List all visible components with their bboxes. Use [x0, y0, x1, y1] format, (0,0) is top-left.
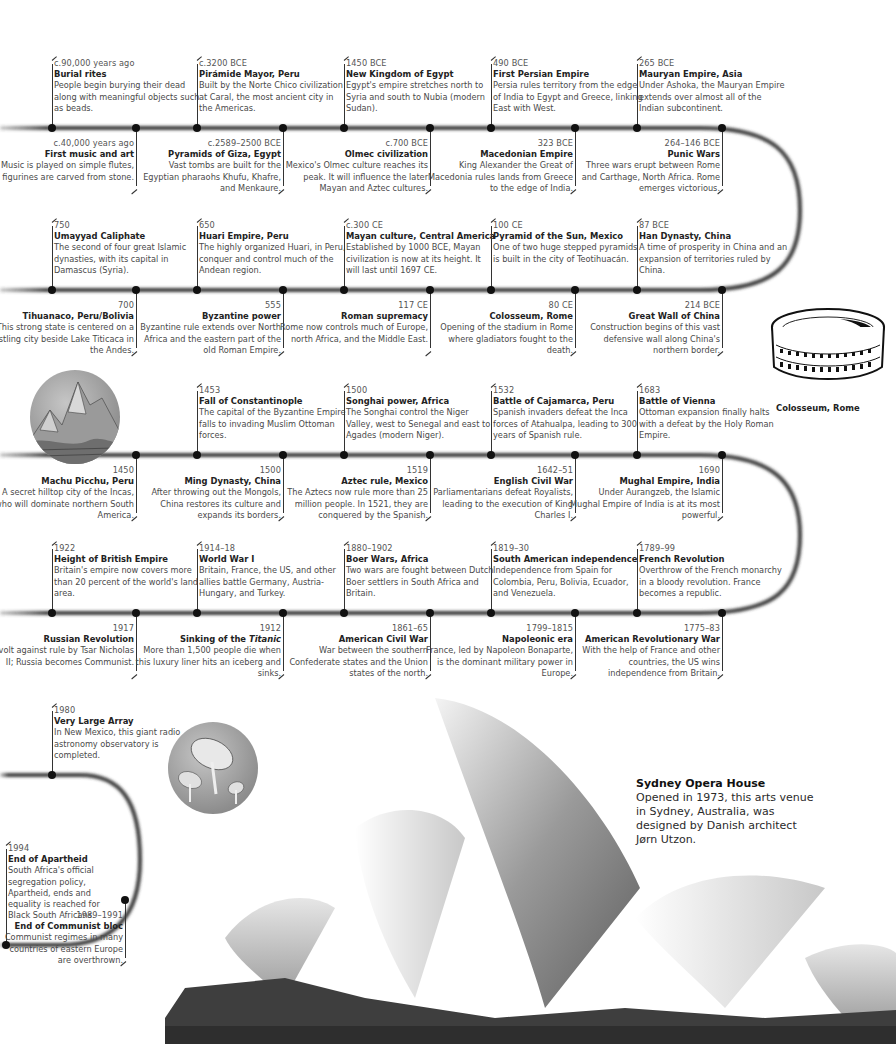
event-date: c.700 BCE [278, 138, 428, 149]
timeline-event: 1799–1815Napoleonic eraFrance, led by Na… [423, 623, 573, 679]
timeline-dot [340, 286, 348, 294]
event-date: 214 BCE [570, 300, 720, 311]
leader-line [344, 226, 345, 290]
timeline-dot [633, 451, 641, 459]
event-description: Established by 1000 BCE, Mayan civilizat… [346, 242, 496, 276]
event-date: 555 [131, 300, 281, 311]
event-title: New Kingdom of Egypt [346, 69, 496, 80]
event-description: Communist regimes in many countries of e… [3, 932, 123, 966]
colosseum-illustration [768, 305, 888, 385]
timeline-event: c.90,000 years agoBurial ritesPeople beg… [54, 58, 204, 114]
event-title: World War I [199, 554, 349, 565]
leader-line [52, 549, 53, 613]
event-description: Mexico's Olmec culture reaches its peak.… [278, 160, 428, 194]
event-description: War between the southern Confederate sta… [278, 645, 428, 679]
timeline-dot [571, 451, 579, 459]
event-title: Pyramid of the Sun, Mexico [493, 231, 643, 242]
event-date: 750 [54, 220, 204, 231]
event-title: English Civil War [423, 476, 573, 487]
event-date: 1917 [0, 623, 134, 634]
event-description: Spanish invaders defeat the Inca forces … [493, 407, 643, 441]
timeline-dot [48, 286, 56, 294]
event-title: Songhai power, Africa [346, 396, 496, 407]
leader-line [52, 711, 53, 775]
event-date: 1994 [8, 843, 120, 854]
event-title: Mauryan Empire, Asia [639, 69, 789, 80]
event-description: More than 1,500 people die when this lux… [131, 645, 281, 679]
timeline-event: 1917Russian RevolutionRevolt against rul… [0, 623, 134, 668]
timeline-dot [132, 286, 140, 294]
event-date: 100 CE [493, 220, 643, 231]
event-description: Persia rules territory from the edge of … [493, 80, 643, 114]
event-title: Battle of Vienna [639, 396, 789, 407]
timeline-dot [132, 609, 140, 617]
leader-line [52, 226, 53, 290]
event-date: 1532 [493, 385, 643, 396]
leader-line [491, 226, 492, 290]
timeline-dot [426, 286, 434, 294]
timeline-dot [193, 286, 201, 294]
event-description: The Aztecs now rule more than 25 million… [278, 487, 428, 521]
event-date: 1912 [131, 623, 281, 634]
event-title: Russian Revolution [0, 634, 134, 645]
event-title: Macedonian Empire [423, 149, 573, 160]
timeline-dot [487, 451, 495, 459]
timeline-event: c.300 CEMayan culture, Central AmericaEs… [346, 220, 496, 276]
leader-line [637, 64, 638, 128]
timeline-event: 1775–83American Revolutionary WarWith th… [570, 623, 720, 679]
event-title: Huari Empire, Peru [199, 231, 349, 242]
event-description: People begin burying their dead along wi… [54, 80, 204, 114]
event-date: 1450 BCE [346, 58, 496, 69]
timeline-dot [487, 609, 495, 617]
event-date: 1914–18 [199, 543, 349, 554]
event-title: First Persian Empire [493, 69, 643, 80]
timeline-event: 1450Machu Picchu, PeruA secret hilltop c… [0, 465, 134, 521]
leader-line [637, 391, 638, 455]
timeline-event: 1500Songhai power, AfricaThe Songhai con… [346, 385, 496, 441]
colosseum-label: Colosseum, Rome [776, 403, 860, 413]
event-date: 1989–1991 [3, 910, 123, 921]
event-date: c.40,000 years ago [0, 138, 134, 149]
leader-line [491, 549, 492, 613]
event-description: The Songhai control the Niger Valley, we… [346, 407, 496, 441]
timeline-dot [279, 124, 287, 132]
event-date: 1500 [131, 465, 281, 476]
event-title: Mayan culture, Central America [346, 231, 496, 242]
event-date: 1683 [639, 385, 789, 396]
event-date: 87 BCE [639, 220, 789, 231]
timeline-event: 87 BCEHan Dynasty, ChinaA time of prospe… [639, 220, 789, 276]
event-title: Fall of Constantinople [199, 396, 349, 407]
timeline-event: 1789–99French RevolutionOverthrow of the… [639, 543, 789, 599]
event-date: 80 CE [423, 300, 573, 311]
event-date: 265 BCE [639, 58, 789, 69]
timeline-event: c.3200 BCEPirámide Mayor, PeruBuilt by t… [199, 58, 349, 114]
timeline-event: 1532Battle of Cajamarca, PeruSpanish inv… [493, 385, 643, 441]
timeline-dot [193, 124, 201, 132]
event-title: South American independence [493, 554, 643, 565]
timeline-event: 100 CEPyramid of the Sun, MexicoOne of t… [493, 220, 643, 265]
event-description: Under Aurangzeb, the Islamic Mughal Empi… [570, 487, 720, 521]
leader-line [197, 549, 198, 613]
timeline-dot [2, 941, 10, 949]
event-date: 323 BCE [423, 138, 573, 149]
event-title: First music and art [0, 149, 134, 160]
event-description: Parliamentarians defeat Royalists, leadi… [423, 487, 573, 521]
event-date: 1880–1902 [346, 543, 496, 554]
event-date: 1690 [570, 465, 720, 476]
timeline-dot [718, 609, 726, 617]
timeline-dot [193, 451, 201, 459]
sydney-opera-house-photo [165, 688, 896, 1044]
event-title: Height of British Empire [54, 554, 204, 565]
event-title: Ming Dynasty, China [131, 476, 281, 487]
timeline-event: 323 BCEMacedonian EmpireKing Alexander t… [423, 138, 573, 194]
event-description: With the help of France and other countr… [570, 645, 720, 679]
timeline-event: 264–146 BCEPunic WarsThree wars erupt be… [570, 138, 720, 194]
timeline-dot [633, 124, 641, 132]
leader-line [637, 226, 638, 290]
timeline-dot [571, 124, 579, 132]
timeline-event: 1450 BCENew Kingdom of EgyptEgypt's empi… [346, 58, 496, 114]
leader-line [722, 290, 723, 348]
timeline-dot [340, 124, 348, 132]
event-title: Byzantine power [131, 311, 281, 322]
event-title-italic: Titanic [249, 634, 281, 644]
